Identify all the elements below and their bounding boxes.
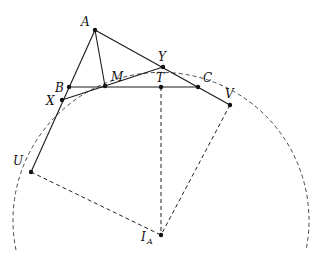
point-M [103,84,107,88]
label-T: T [156,71,165,85]
label-M: M [110,70,124,84]
point-A [93,28,97,32]
point-X [60,98,64,102]
label-V: V [225,87,235,101]
geometry-diagram: A B C M T X Y U V I A [0,0,323,263]
point-U [29,170,33,174]
point-C [196,85,200,89]
line-AM [95,30,105,86]
label-IA: I [140,230,146,244]
radius-UIA [31,172,161,235]
point-B [67,85,71,89]
label-IA-subscript: A [146,237,153,246]
label-U: U [13,154,24,168]
points [29,28,232,237]
point-T [159,85,163,89]
point-IA [159,233,163,237]
label-A: A [80,15,90,29]
label-X: X [45,94,55,108]
radius-VIA [161,105,230,235]
point-Y [161,65,165,69]
point-V [228,103,232,107]
label-B: B [54,81,64,95]
label-Y: Y [158,50,167,64]
diagram-canvas: A B C M T X Y U V I A [0,0,323,263]
label-C: C [203,71,212,85]
